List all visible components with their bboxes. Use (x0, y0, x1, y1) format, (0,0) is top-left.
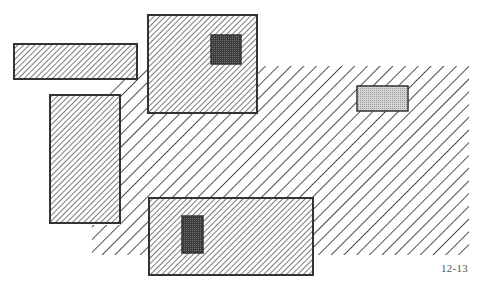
top-left-bar (14, 44, 137, 79)
bottom-box (149, 198, 313, 275)
bottom-box-dark-rect (182, 216, 203, 253)
light-box (357, 86, 408, 111)
layout-diagram (0, 0, 497, 291)
figure-label: 12-13 (441, 262, 468, 274)
top-box-dark-square (211, 35, 241, 64)
left-tall-box (50, 95, 120, 223)
